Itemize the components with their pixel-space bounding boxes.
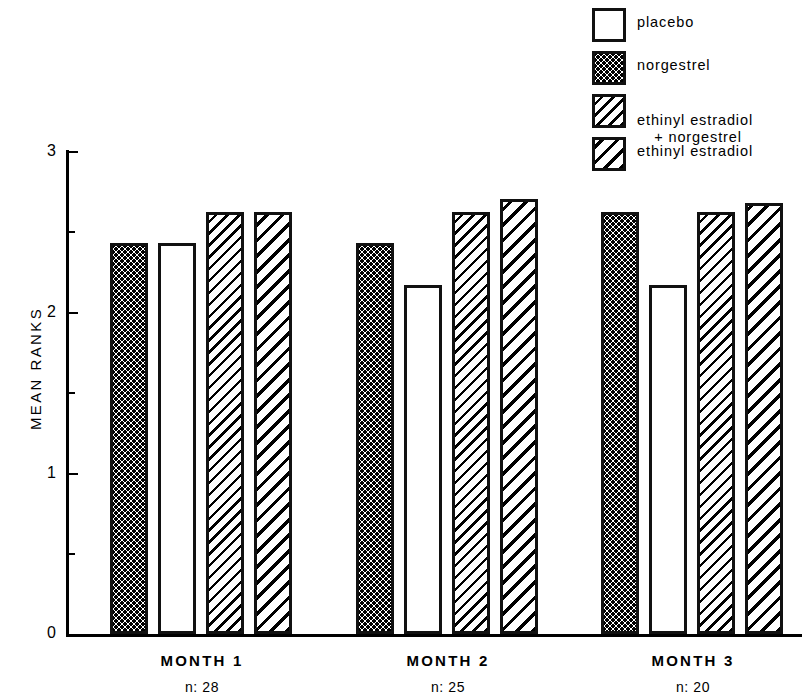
bar-month-1-ethinyl-estradiol — [254, 212, 292, 634]
bar-month-3-placebo — [649, 285, 687, 634]
bar-month-2-placebo — [404, 285, 442, 634]
bar-month-3-ethinyl-estradiol-norgestrel — [697, 212, 735, 634]
bar-month-1-placebo — [158, 243, 196, 634]
group-name-month-1: MONTH 1 — [92, 652, 312, 669]
group-caption-month-1: MONTH 1 n: 28 — [92, 652, 312, 695]
group-n-month-2: n: 25 — [338, 679, 558, 695]
bar-month-3-ethinyl-estradiol — [745, 203, 783, 634]
bar-month-1-ethinyl-estradiol-norgestrel — [206, 212, 244, 634]
bar-month-2-ethinyl-estradiol-norgestrel — [452, 212, 490, 634]
bars-layer — [0, 0, 812, 637]
group-n-month-1: n: 28 — [92, 679, 312, 695]
bar-month-2-norgestrel — [356, 243, 394, 634]
group-n-month-3: n: 20 — [583, 679, 803, 695]
bar-month-3-norgestrel — [601, 212, 639, 634]
group-caption-month-2: MONTH 2 n: 25 — [338, 652, 558, 695]
bar-chart-figure: placebo norgestrel ethinyl estradiol + n… — [0, 0, 812, 695]
group-name-month-2: MONTH 2 — [338, 652, 558, 669]
bar-month-1-norgestrel — [110, 243, 148, 634]
group-name-month-3: MONTH 3 — [583, 652, 803, 669]
group-caption-month-3: MONTH 3 n: 20 — [583, 652, 803, 695]
bar-month-2-ethinyl-estradiol — [500, 199, 538, 634]
plot-area: 3 2 1 0 MEAN RANKS MONTH 1 n: 28 MONTH 2… — [0, 0, 812, 695]
